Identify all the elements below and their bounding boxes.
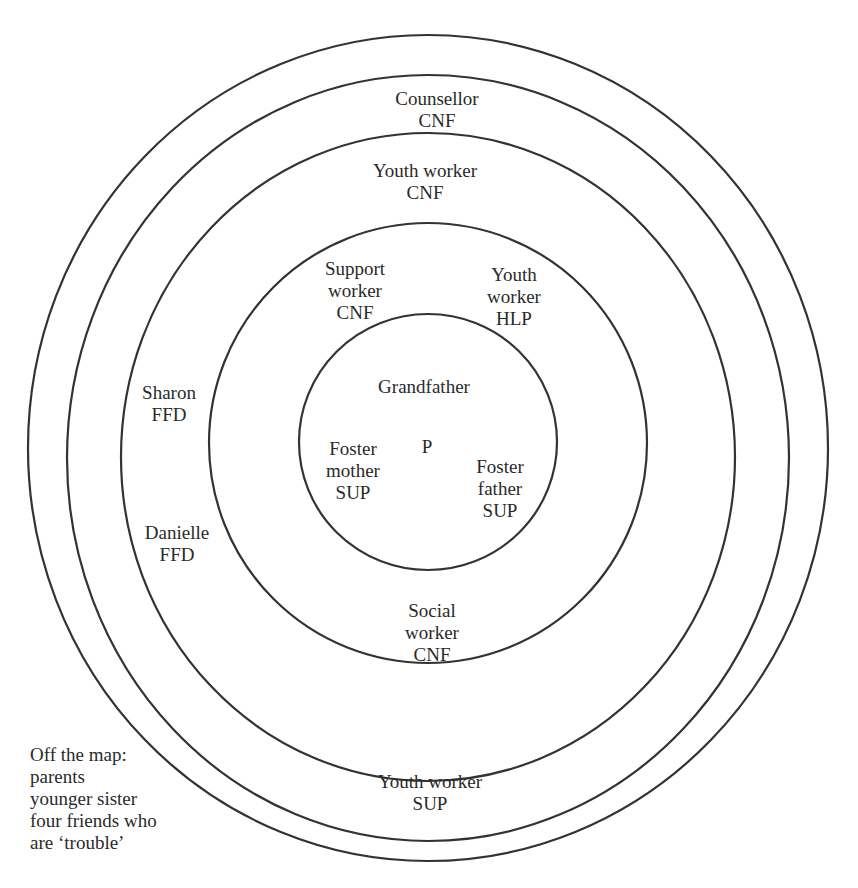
label-grandfather: Grandfather	[378, 376, 470, 398]
label-line: CNF	[373, 182, 477, 204]
label-line: Sharon	[142, 382, 196, 404]
label-line: HLP	[487, 308, 541, 330]
label-line: CNF	[405, 644, 459, 666]
center-p: P	[422, 436, 433, 458]
off-map-title: Off the map:	[30, 744, 157, 766]
label-line: worker	[487, 286, 541, 308]
label-line: SUP	[326, 482, 380, 504]
label-line: Foster	[476, 456, 524, 478]
off-map-item: are ‘trouble’	[30, 832, 157, 854]
label-counsellor: Counsellor CNF	[395, 88, 478, 132]
label-line: Youth worker	[373, 160, 477, 182]
label-social-worker: Social worker CNF	[405, 600, 459, 666]
off-map-item: four friends who	[30, 810, 157, 832]
label-line: CNF	[325, 302, 385, 324]
label-foster-mother: Foster mother SUP	[326, 438, 380, 504]
label-line: FFD	[142, 404, 196, 426]
off-map-item: younger sister	[30, 788, 157, 810]
label-line: Support	[325, 258, 385, 280]
label-line: SUP	[378, 793, 482, 815]
label-line: father	[476, 478, 524, 500]
label-line: Foster	[326, 438, 380, 460]
label-youth-worker-hlp: Youth worker HLP	[487, 264, 541, 330]
label-line: worker	[325, 280, 385, 302]
label-line: Counsellor	[395, 88, 478, 110]
label-line: worker	[405, 622, 459, 644]
label-danielle: Danielle FFD	[145, 522, 209, 566]
label-line: CNF	[395, 110, 478, 132]
label-line: Youth worker	[378, 771, 482, 793]
center-label: P	[422, 436, 433, 458]
off-the-map-note: Off the map: parents younger sister four…	[30, 744, 157, 854]
label-line: Social	[405, 600, 459, 622]
label-youth-worker-cnf: Youth worker CNF	[373, 160, 477, 204]
off-map-item: parents	[30, 766, 157, 788]
label-line: Grandfather	[378, 376, 470, 398]
label-support-worker: Support worker CNF	[325, 258, 385, 324]
label-line: FFD	[145, 544, 209, 566]
label-foster-father: Foster father SUP	[476, 456, 524, 522]
label-line: SUP	[476, 500, 524, 522]
label-youth-worker-sup: Youth worker SUP	[378, 771, 482, 815]
label-line: Danielle	[145, 522, 209, 544]
label-sharon: Sharon FFD	[142, 382, 196, 426]
label-line: mother	[326, 460, 380, 482]
label-line: Youth	[487, 264, 541, 286]
